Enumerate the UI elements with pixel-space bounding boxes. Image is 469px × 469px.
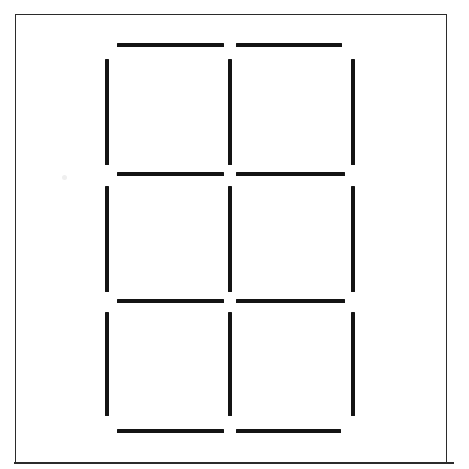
left-row3-stick (105, 312, 109, 416)
middle-row2-stick (228, 186, 232, 292)
top-left-stick (117, 43, 224, 47)
left-row1-stick (105, 59, 109, 165)
bottom-left-stick (117, 429, 224, 433)
paper-speck-artifact (62, 175, 67, 180)
left-row2-stick (105, 186, 109, 292)
right-row1-stick (351, 59, 355, 165)
right-row2-stick (351, 186, 355, 292)
middle-row1-stick (228, 59, 232, 165)
page-bottom-edge-line (14, 462, 454, 464)
mid-upper-left-stick (117, 172, 224, 176)
matchstick-figure-canvas: Matchstick grid figure A 2 by 3 arrangem… (0, 0, 469, 469)
top-right-stick (236, 43, 342, 47)
mid-upper-right-stick (236, 172, 345, 176)
bottom-right-stick (236, 429, 341, 433)
mid-lower-left-stick (117, 299, 224, 303)
mid-lower-right-stick (236, 299, 345, 303)
middle-row3-stick (228, 312, 232, 416)
right-row3-stick (351, 312, 355, 416)
